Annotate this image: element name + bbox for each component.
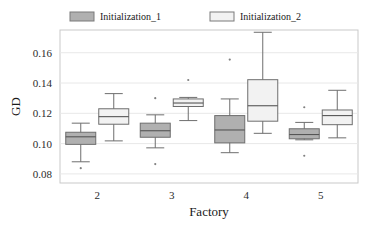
legend-label: Initialization_2 bbox=[240, 11, 301, 22]
y-tick-label: 0.12 bbox=[33, 107, 52, 119]
chart-canvas: 0.080.100.120.140.162345FactoryGDInitial… bbox=[0, 0, 372, 227]
outlier-point bbox=[229, 58, 231, 60]
outlier-point bbox=[80, 167, 82, 169]
legend-swatch bbox=[70, 12, 94, 21]
y-tick-label: 0.08 bbox=[33, 168, 53, 180]
x-tick-label: 4 bbox=[244, 189, 250, 201]
box-rect bbox=[215, 116, 245, 143]
boxplot-figure: 0.080.100.120.140.162345FactoryGDInitial… bbox=[0, 0, 372, 227]
y-tick-label: 0.10 bbox=[33, 138, 53, 150]
y-axis-title: GD bbox=[8, 97, 23, 116]
outlier-point bbox=[303, 106, 305, 108]
box-rect bbox=[248, 80, 278, 122]
outlier-point bbox=[303, 155, 305, 157]
outlier-point bbox=[154, 97, 156, 99]
legend-swatch bbox=[210, 12, 234, 21]
x-tick-label: 2 bbox=[95, 189, 101, 201]
legend-item-1[interactable]: Initialization_1 bbox=[70, 11, 161, 22]
box-rect bbox=[66, 132, 96, 144]
legend-label: Initialization_1 bbox=[100, 11, 161, 22]
y-tick-label: 0.14 bbox=[33, 77, 53, 89]
x-axis-title: Factory bbox=[189, 204, 229, 219]
y-tick-label: 0.16 bbox=[33, 47, 53, 59]
box-rect bbox=[322, 110, 352, 125]
box-rect bbox=[289, 129, 319, 139]
x-tick-label: 5 bbox=[318, 189, 324, 201]
legend-item-2[interactable]: Initialization_2 bbox=[210, 11, 301, 22]
x-tick-label: 3 bbox=[169, 189, 175, 201]
outlier-point bbox=[187, 79, 189, 81]
outlier-point bbox=[154, 163, 156, 165]
